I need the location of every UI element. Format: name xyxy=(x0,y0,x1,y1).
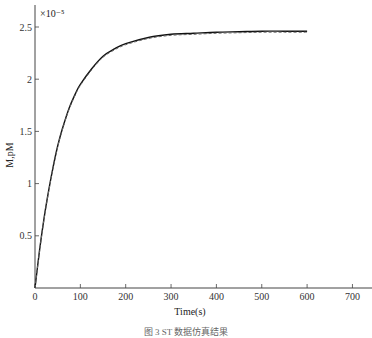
x-tick-label: 0 xyxy=(33,291,38,302)
y-axis-label: M,pM xyxy=(4,142,15,167)
x-tick-label: 400 xyxy=(209,291,224,302)
y-multiplier: ×10⁻⁵ xyxy=(40,8,64,19)
series-line-measured xyxy=(35,32,307,288)
x-tick-label: 300 xyxy=(164,291,179,302)
y-tick-label: 1.5 xyxy=(20,126,33,137)
y-tick-label: 2 xyxy=(27,74,32,85)
x-tick-label: 600 xyxy=(300,291,315,302)
y-ticks: 0.511.522.5 xyxy=(20,22,40,242)
y-tick-label: 1 xyxy=(27,178,32,189)
figure-caption: 图 3 ST 数据仿真结果 xyxy=(0,325,372,338)
x-ticks: 0100200300400500600700 xyxy=(33,284,360,302)
axes xyxy=(35,5,372,288)
series-line-simulated xyxy=(35,31,307,288)
x-tick-label: 100 xyxy=(73,291,88,302)
data-series xyxy=(35,31,307,288)
x-tick-label: 500 xyxy=(254,291,269,302)
x-tick-label: 200 xyxy=(118,291,133,302)
y-tick-label: 0.5 xyxy=(20,230,33,241)
x-axis-label: Time(s) xyxy=(174,306,205,318)
x-tick-label: 700 xyxy=(345,291,360,302)
y-tick-label: 2.5 xyxy=(20,22,33,33)
